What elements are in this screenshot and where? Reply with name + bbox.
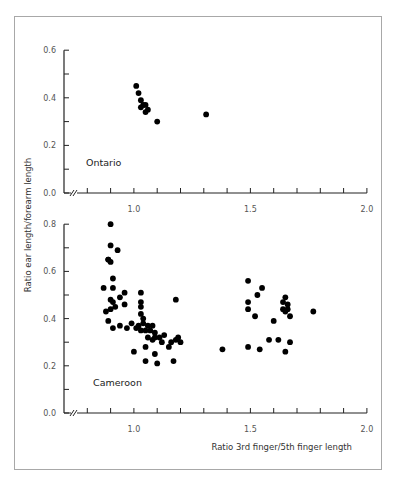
data-point — [150, 337, 156, 343]
data-point — [173, 297, 179, 303]
data-point — [117, 323, 123, 329]
data-point — [220, 346, 226, 352]
top-data-points — [133, 83, 209, 125]
data-point — [108, 221, 114, 227]
data-point — [161, 332, 167, 338]
data-point — [129, 320, 135, 326]
x-tick-label: 1.5 — [244, 205, 257, 214]
panel-label-ontario: Ontario — [86, 157, 122, 168]
data-point — [245, 278, 251, 284]
data-point — [259, 285, 265, 291]
data-point — [110, 325, 116, 331]
data-point — [282, 349, 288, 355]
data-point — [110, 285, 116, 291]
data-point — [275, 337, 281, 343]
data-point — [145, 107, 151, 113]
data-point — [108, 243, 114, 249]
x-tick-label: 1.0 — [128, 205, 141, 214]
data-point — [203, 112, 209, 118]
x-axis-title: Ratio 3rd finger/5th finger length — [211, 442, 352, 452]
data-point — [159, 339, 165, 345]
data-point — [245, 344, 251, 350]
y-tick-label: 0.0 — [43, 409, 56, 418]
x-tick-label: 2.0 — [361, 425, 374, 434]
x-tick-label: 1.0 — [128, 425, 141, 434]
data-point — [112, 304, 118, 310]
data-point — [143, 358, 149, 364]
top-panel: 0.00.20.40.61.01.52.0 Ontario — [43, 46, 373, 214]
bottom-panel: 0.00.20.40.60.81.01.52.0 Cameroon — [43, 220, 373, 434]
data-point — [103, 309, 109, 315]
data-point — [131, 349, 137, 355]
data-point — [282, 309, 288, 315]
y-tick-label: 0.2 — [43, 141, 56, 150]
data-point — [171, 358, 177, 364]
y-tick-label: 0.2 — [43, 362, 56, 371]
data-point — [271, 318, 277, 324]
data-point — [152, 351, 158, 357]
data-point — [287, 339, 293, 345]
data-point — [252, 313, 258, 319]
bottom-axes: 0.00.20.40.60.81.01.52.0 — [43, 220, 373, 434]
data-point — [136, 90, 142, 96]
bottom-data-points — [101, 221, 317, 366]
data-point — [124, 325, 130, 331]
scatter-figure: Ratio ear length/forearm length 0.00.20.… — [0, 0, 396, 489]
data-point — [257, 346, 263, 352]
data-point — [101, 285, 107, 291]
y-tick-label: 0.0 — [43, 189, 56, 198]
y-axis-title: Ratio ear length/forearm length — [23, 158, 33, 292]
data-point — [245, 306, 251, 312]
data-point — [117, 294, 123, 300]
y-tick-label: 0.6 — [43, 46, 56, 55]
data-point — [105, 318, 111, 324]
data-point — [154, 119, 160, 125]
data-point — [105, 257, 111, 263]
panel-label-cameroon: Cameroon — [93, 377, 142, 388]
data-point — [115, 247, 121, 253]
data-point — [122, 290, 128, 296]
x-tick-label: 1.5 — [244, 425, 257, 434]
y-tick-label: 0.4 — [43, 94, 56, 103]
data-point — [266, 337, 272, 343]
data-point — [122, 302, 128, 308]
data-point — [178, 339, 184, 345]
data-point — [154, 361, 160, 367]
data-point — [143, 344, 149, 350]
data-point — [138, 304, 144, 310]
x-tick-label: 2.0 — [361, 205, 374, 214]
y-tick-label: 0.8 — [43, 220, 56, 229]
data-point — [254, 292, 260, 298]
data-point — [133, 83, 139, 89]
data-point — [110, 276, 116, 282]
data-point — [287, 313, 293, 319]
data-point — [166, 344, 172, 350]
y-tick-label: 0.4 — [43, 315, 56, 324]
y-tick-label: 0.6 — [43, 267, 56, 276]
data-point — [245, 299, 251, 305]
data-point — [138, 290, 144, 296]
top-axes: 0.00.20.40.61.01.52.0 — [43, 46, 373, 214]
data-point — [310, 309, 316, 315]
